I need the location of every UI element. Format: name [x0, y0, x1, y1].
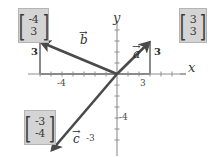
vector-a-component-x: 3	[190, 14, 197, 26]
bracket-right-icon: ]	[49, 117, 55, 139]
vector-diagram: [ -4 3 ] [ 3 3 ] [ -3 -4 ]	[0, 0, 210, 157]
vector-b-label: → b	[80, 33, 210, 47]
vector-b-value-box: [ -4 3 ]	[18, 8, 49, 43]
vector-a-label: → a	[133, 47, 210, 61]
bracket-right-icon: ]	[42, 15, 48, 37]
x-tick-label-neg4: -4	[57, 78, 66, 88]
bracket-left-icon: [	[25, 117, 31, 139]
y-axis-label: y	[113, 10, 120, 25]
x-tick-label-3: 3	[140, 78, 146, 88]
vector-b-arrow	[42, 43, 118, 75]
vector-c-value-box: [ -3 -4 ]	[24, 110, 56, 145]
vector-b-matrix: [ -4 3 ]	[16, 14, 52, 37]
vector-c-component-x: -3	[35, 116, 45, 128]
vector-arrow-icon: →	[72, 126, 80, 137]
y-tick-label-neg4: -4	[119, 112, 128, 122]
vector-b-component-x: -4	[28, 14, 38, 26]
vector-c-matrix: [ -3 -4 ]	[22, 116, 58, 139]
x-axis-label: x	[188, 60, 195, 75]
vector-arrow-icon: →	[132, 41, 140, 52]
vector-c-component-y: -4	[35, 128, 45, 140]
vector-b-component-y: 3	[30, 26, 37, 38]
bracket-left-icon: [	[18, 15, 24, 37]
vector-c-label: → c	[73, 132, 210, 146]
vector-arrow-icon: →	[79, 27, 87, 38]
vector-b-leg-label: 3	[31, 46, 38, 57]
